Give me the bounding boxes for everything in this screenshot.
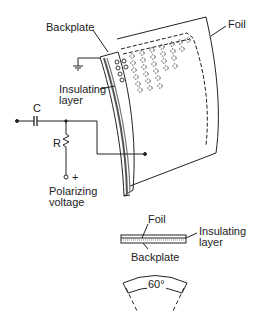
foil-sheet	[117, 17, 218, 186]
label-backplate: Backplate	[46, 22, 94, 33]
electrostatic-element-diagram: Backplate Foil Insulating layer C R + Po…	[0, 0, 256, 326]
backplate	[100, 52, 134, 196]
cross-section	[121, 224, 197, 249]
label-insulating-2: layer	[59, 95, 83, 106]
label-angle: 60°	[147, 279, 166, 290]
foil-dashed-edge	[121, 33, 207, 145]
label-cs-insulating-2: layer	[199, 237, 223, 248]
label-cs-backplate: Backplate	[131, 252, 179, 263]
label-plus: +	[72, 172, 78, 183]
label-cs-foil: Foil	[148, 214, 166, 225]
backplate-leader	[93, 30, 108, 52]
foil-leader	[211, 26, 226, 36]
ground-symbol	[73, 58, 100, 70]
diagram-drawing	[0, 0, 256, 326]
label-resistor: R	[53, 138, 61, 149]
label-capacitor: C	[33, 103, 41, 114]
label-polarizing-2: voltage	[49, 197, 84, 208]
label-foil: Foil	[228, 19, 246, 30]
